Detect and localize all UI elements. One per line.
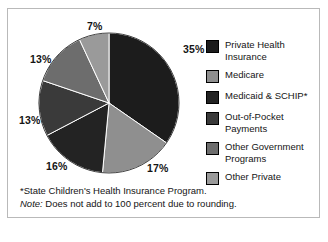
footnote-note: Note: Does not add to 100 percent due to…: [20, 198, 310, 211]
footnote-note-text: Does not add to 100 percent due to round…: [43, 198, 237, 209]
pie-label-medicaid-schip: 16%: [46, 160, 67, 172]
legend-swatch-icon: [206, 91, 219, 104]
legend-swatch-icon: [206, 40, 219, 53]
pie-label-out-of-pocket-payments: 13%: [19, 114, 40, 126]
footnotes: *State Children's Health Insurance Progr…: [20, 185, 310, 210]
legend-item[interactable]: Other Government Programs: [206, 141, 318, 164]
legend: Private Health InsuranceMedicareMedicaid…: [206, 39, 318, 192]
pie-label-private-health-insurance: 35%: [183, 43, 204, 55]
legend-item[interactable]: Other Private: [206, 171, 318, 185]
chart-area: 35% 17% 16% 13% 13% 7% Private Health In…: [8, 9, 321, 219]
pie-chart: [38, 32, 180, 174]
legend-swatch-icon: [206, 112, 219, 125]
legend-item-label: Out-of-Pocket Payments: [225, 111, 318, 134]
footnote-note-prefix: Note:: [20, 198, 43, 209]
pie-label-other-government-programs: 13%: [30, 53, 51, 65]
legend-item[interactable]: Out-of-Pocket Payments: [206, 111, 318, 134]
legend-item[interactable]: Medicaid & SCHIP*: [206, 90, 318, 104]
legend-swatch-icon: [206, 172, 219, 185]
legend-item-label: Other Government Programs: [225, 141, 318, 164]
legend-item[interactable]: Medicare: [206, 69, 318, 83]
legend-item-label: Private Health Insurance: [225, 39, 318, 62]
legend-swatch-icon: [206, 70, 219, 83]
pie-slices: [39, 33, 179, 173]
legend-item-label: Medicare: [225, 69, 264, 81]
legend-item-label: Other Private: [225, 171, 281, 183]
pie-svg: [38, 32, 180, 174]
pie-label-medicare: 17%: [147, 162, 168, 174]
footnote-asterisk: *State Children's Health Insurance Progr…: [20, 185, 310, 198]
legend-item-label: Medicaid & SCHIP*: [225, 90, 307, 102]
legend-item[interactable]: Private Health Insurance: [206, 39, 318, 62]
pie-label-other-private: 7%: [87, 20, 102, 32]
figure-frame: 35% 17% 16% 13% 13% 7% Private Health In…: [7, 8, 320, 218]
legend-swatch-icon: [206, 142, 219, 155]
